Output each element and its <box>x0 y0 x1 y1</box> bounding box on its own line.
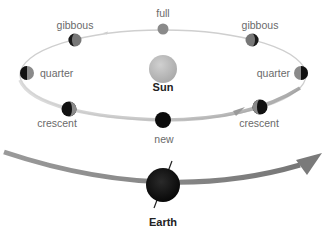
sun-label: Sun <box>153 81 174 93</box>
label-gibbous-left: gibbous <box>57 19 94 31</box>
label-crescent-left: crescent <box>37 117 77 129</box>
moon-quarter-left <box>20 66 34 80</box>
earth <box>146 161 180 208</box>
label-gibbous-right: gibbous <box>242 19 279 31</box>
sun <box>149 55 177 83</box>
label-full: full <box>156 7 169 19</box>
label-quarter-left: quarter <box>40 67 74 79</box>
label-new: new <box>154 133 174 145</box>
label-quarter-right: quarter <box>257 67 291 79</box>
moon-crescent-left <box>62 102 77 117</box>
moon-gibbous-right <box>246 34 259 47</box>
moon-crescent-right <box>253 100 268 115</box>
moon-full <box>158 24 169 35</box>
moon-new <box>155 112 171 128</box>
earth-label: Earth <box>149 216 177 228</box>
moon-gibbous-left <box>69 34 82 47</box>
moon-phase-diagram: Sun full gibbous gibbous quarter quarter… <box>0 0 326 231</box>
label-crescent-right: crescent <box>239 117 279 129</box>
earth-direction-arrow-icon <box>296 153 322 175</box>
moon-quarter-right <box>294 66 308 80</box>
